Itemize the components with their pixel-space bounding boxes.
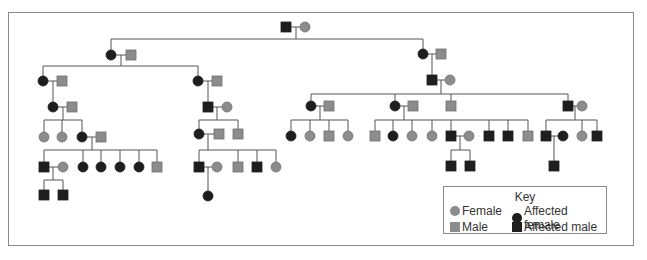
male-icon (126, 50, 136, 60)
affected-male-icon (446, 161, 456, 171)
affected-male-icon (592, 131, 602, 141)
male-icon (324, 131, 334, 141)
legend-label-female: Female (462, 204, 502, 218)
affected-male-icon (465, 161, 475, 171)
male-icon (324, 101, 334, 111)
legend-item-affected-male: Affected male (512, 220, 597, 234)
affected-male-icon (58, 190, 68, 200)
legend-item-female: Female (450, 204, 502, 218)
affected-female-icon (203, 191, 213, 201)
male-icon (436, 49, 446, 59)
affected-male-icon (194, 162, 204, 172)
female-icon (577, 101, 587, 111)
affected-male-icon (281, 22, 291, 32)
female-icon (57, 132, 67, 142)
affected-female-icon (134, 162, 144, 172)
affected-male-icon (549, 161, 559, 171)
male-icon (370, 131, 380, 141)
female-icon (464, 131, 474, 141)
affected-female-icon (38, 76, 48, 86)
female-icon (300, 22, 310, 32)
affected-male-icon (484, 131, 494, 141)
legend-title: Key (444, 190, 606, 204)
affected-male-icon (39, 190, 49, 200)
legend-item-male: Male (450, 220, 488, 234)
legend-label-male: Male (462, 220, 488, 234)
affected-female-icon (77, 132, 87, 142)
male-icon (523, 131, 533, 141)
affected-male-icon (39, 162, 49, 172)
female-icon (305, 131, 315, 141)
affected-male-icon (563, 101, 573, 111)
affected-female-icon (558, 131, 568, 141)
male-icon (446, 101, 456, 111)
male-square-icon (450, 222, 460, 232)
affected-female-icon (286, 131, 296, 141)
legend-key: Key Female Affected female Male Affected… (443, 186, 607, 234)
female-icon (407, 131, 417, 141)
female-icon (58, 162, 68, 172)
male-icon (233, 162, 243, 172)
affected-male-square-icon (512, 222, 522, 232)
female-icon (222, 102, 232, 112)
affected-female-icon (390, 101, 400, 111)
male-icon (67, 102, 77, 112)
affected-male-icon (252, 162, 262, 172)
female-icon (212, 162, 222, 172)
male-icon (96, 132, 106, 142)
male-icon (57, 76, 67, 86)
affected-female-icon (115, 162, 125, 172)
male-icon (152, 162, 162, 172)
affected-male-icon (427, 75, 437, 85)
female-icon (577, 131, 587, 141)
affected-female-icon (306, 101, 316, 111)
female-icon (445, 75, 455, 85)
affected-male-icon (203, 102, 213, 112)
male-icon (233, 129, 243, 139)
pedigree-figure: Key Female Affected female Male Affected… (0, 0, 647, 260)
male-icon (408, 101, 418, 111)
female-icon (343, 131, 353, 141)
affected-female-icon (48, 102, 58, 112)
affected-female-icon (418, 49, 428, 59)
affected-female-icon (78, 162, 88, 172)
male-icon (212, 76, 222, 86)
legend-label-affected-male: Affected male (524, 220, 597, 234)
female-circle-icon (450, 206, 460, 216)
affected-male-icon (446, 131, 456, 141)
affected-male-icon (503, 131, 513, 141)
affected-female-icon (106, 50, 116, 60)
affected-female-icon (388, 131, 398, 141)
affected-female-icon (194, 129, 204, 139)
female-icon (39, 132, 49, 142)
female-icon (427, 131, 437, 141)
female-icon (271, 162, 281, 172)
affected-female-icon (96, 162, 106, 172)
male-icon (214, 129, 224, 139)
affected-female-icon (193, 76, 203, 86)
affected-male-icon (541, 131, 551, 141)
